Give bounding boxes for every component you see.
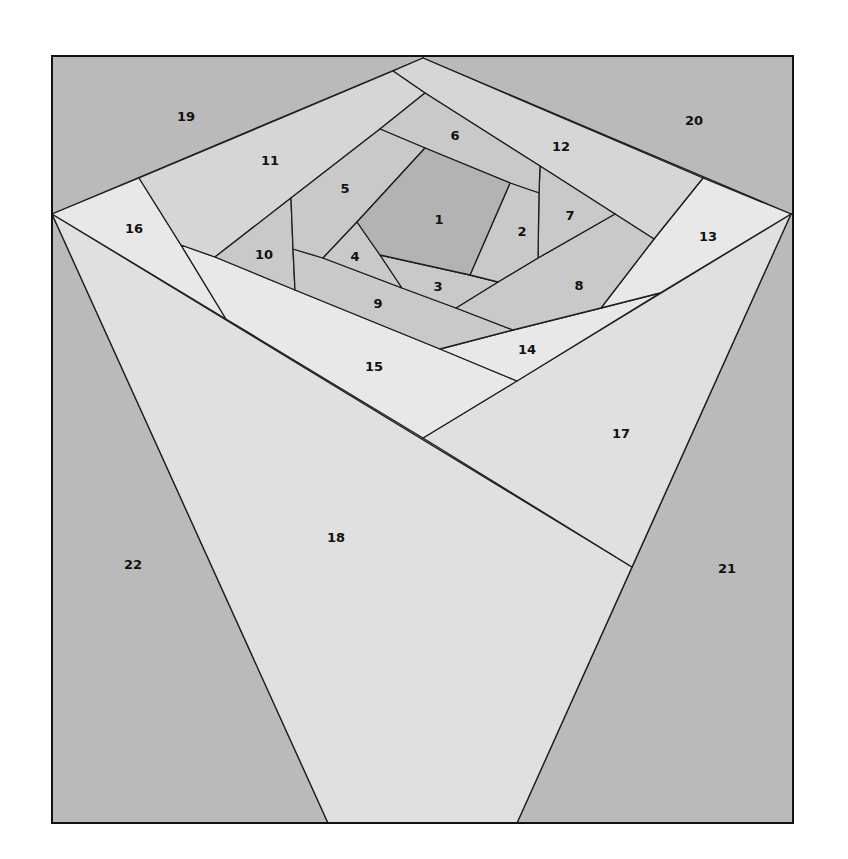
piece-label-14: 14 bbox=[518, 342, 536, 357]
piece-label-20: 20 bbox=[685, 113, 703, 128]
piece-label-18: 18 bbox=[327, 530, 345, 545]
piece-label-17: 17 bbox=[612, 426, 630, 441]
piece-label-1: 1 bbox=[434, 212, 443, 227]
piece-label-3: 3 bbox=[433, 279, 442, 294]
piece-label-12: 12 bbox=[552, 139, 570, 154]
piece-label-5: 5 bbox=[340, 181, 349, 196]
piece-label-6: 6 bbox=[450, 128, 459, 143]
piece-label-8: 8 bbox=[574, 278, 583, 293]
piece-label-21: 21 bbox=[718, 561, 736, 576]
piece-label-16: 16 bbox=[125, 221, 143, 236]
piece-label-7: 7 bbox=[565, 208, 574, 223]
piece-label-10: 10 bbox=[255, 247, 273, 262]
piece-label-2: 2 bbox=[517, 224, 526, 239]
piece-label-19: 19 bbox=[177, 109, 195, 124]
piece-label-15: 15 bbox=[365, 359, 383, 374]
piece-label-4: 4 bbox=[350, 249, 359, 264]
piece-label-9: 9 bbox=[373, 296, 382, 311]
piece-label-22: 22 bbox=[124, 557, 142, 572]
rose-pattern-diagram: 19202221181716151413121110987654321 bbox=[0, 0, 848, 859]
piece-label-11: 11 bbox=[261, 153, 279, 168]
piece-label-13: 13 bbox=[699, 229, 717, 244]
pattern-pieces bbox=[52, 56, 793, 823]
